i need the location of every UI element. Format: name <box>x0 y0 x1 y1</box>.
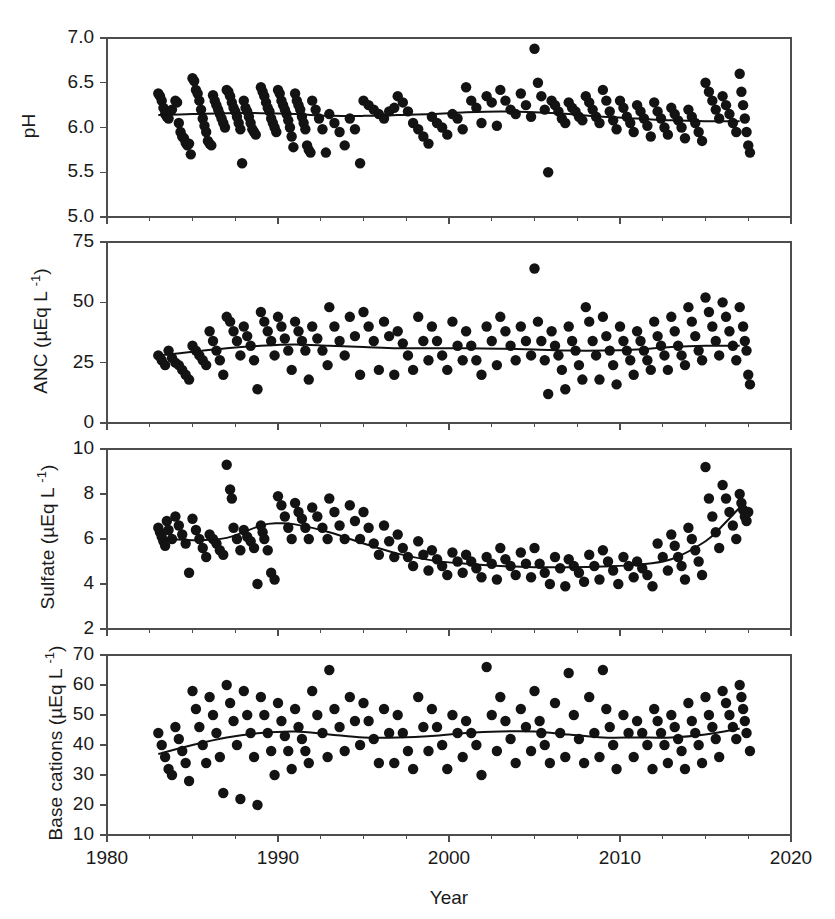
data-point <box>239 686 249 696</box>
data-point <box>324 665 334 675</box>
data-point <box>379 704 389 714</box>
x-axis-title: Year <box>107 887 791 909</box>
data-point <box>252 800 262 810</box>
data-point <box>242 710 252 720</box>
data-point <box>608 740 618 750</box>
data-point <box>174 734 184 744</box>
data-point <box>322 752 332 762</box>
data-point <box>738 704 748 714</box>
x-tick-label: 2000 <box>404 847 494 869</box>
data-point <box>564 668 574 678</box>
data-point <box>647 764 657 774</box>
data-point <box>560 752 570 762</box>
data-point <box>211 728 221 738</box>
data-point <box>259 710 269 720</box>
data-point <box>269 770 279 780</box>
data-point <box>442 764 452 774</box>
data-point <box>569 710 579 720</box>
x-tick-label: 2020 <box>746 847 835 869</box>
x-tick-label: 1980 <box>62 847 152 869</box>
data-point <box>369 734 379 744</box>
data-point <box>184 776 194 786</box>
data-point <box>208 710 218 720</box>
data-point <box>363 716 373 726</box>
data-point <box>594 752 604 762</box>
data-points <box>153 662 755 810</box>
data-point <box>427 704 437 714</box>
data-point <box>273 698 283 708</box>
data-point <box>218 788 228 798</box>
data-point <box>611 764 621 774</box>
data-point <box>201 758 211 768</box>
data-point <box>584 692 594 702</box>
data-point <box>550 698 560 708</box>
data-point <box>505 734 515 744</box>
data-point <box>481 662 491 672</box>
data-point <box>579 758 589 768</box>
x-tick-label: 1990 <box>233 847 323 869</box>
data-point <box>516 704 526 714</box>
data-point <box>670 722 680 732</box>
data-point <box>534 716 544 726</box>
data-point <box>697 758 707 768</box>
data-point <box>711 734 721 744</box>
data-point <box>605 722 615 732</box>
data-point <box>249 752 259 762</box>
data-point <box>222 680 232 690</box>
data-point <box>408 764 418 774</box>
data-point <box>495 692 505 702</box>
x-tick-label: 2010 <box>575 847 665 869</box>
data-point <box>276 716 286 726</box>
data-point <box>457 752 467 762</box>
data-point <box>500 716 510 726</box>
data-point <box>476 770 486 780</box>
data-point <box>225 698 235 708</box>
data-point <box>374 758 384 768</box>
data-point <box>339 746 349 756</box>
data-point <box>673 734 683 744</box>
data-point <box>204 692 214 702</box>
data-point <box>300 746 310 756</box>
data-point <box>745 746 755 756</box>
data-point <box>157 740 167 750</box>
data-point <box>312 710 322 720</box>
data-point <box>304 758 314 768</box>
data-point <box>663 758 673 768</box>
data-point <box>471 740 481 750</box>
data-point <box>740 716 750 726</box>
data-point <box>307 686 317 696</box>
data-point <box>707 722 717 732</box>
data-point <box>724 710 734 720</box>
data-point <box>215 752 225 762</box>
data-point <box>191 704 201 714</box>
data-point <box>437 740 447 750</box>
data-point <box>642 740 652 750</box>
data-point <box>256 692 266 702</box>
data-point <box>297 734 307 744</box>
data-point <box>659 740 669 750</box>
data-point <box>717 686 727 696</box>
data-point <box>403 746 413 756</box>
data-point <box>601 704 611 714</box>
data-point <box>418 722 428 732</box>
data-point <box>735 680 745 690</box>
data-point <box>194 722 204 732</box>
data-point <box>704 710 714 720</box>
data-point <box>423 746 433 756</box>
data-point <box>545 758 555 768</box>
data-point <box>632 716 642 726</box>
data-point <box>389 758 399 768</box>
data-point <box>329 704 339 714</box>
data-point <box>666 710 676 720</box>
data-point <box>180 758 190 768</box>
data-point <box>413 692 423 702</box>
figure-multipanel-timeseries: 5.05.56.06.57.0pH0255075ANC (µEq L -1)24… <box>0 0 835 919</box>
data-point <box>510 758 520 768</box>
data-point <box>683 698 693 708</box>
panel-frame <box>107 655 791 835</box>
panel-base_cations-plot <box>0 0 835 919</box>
data-point <box>714 752 724 762</box>
data-point <box>153 728 163 738</box>
panel-base_cations-y-axis-title: Base cations (µEq L -1) <box>44 641 66 846</box>
data-point <box>334 722 344 732</box>
